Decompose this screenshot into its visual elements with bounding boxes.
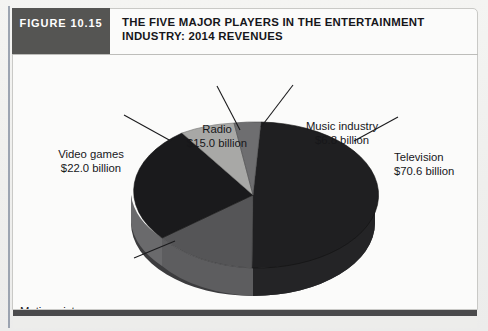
figure-bottom-bar (13, 310, 477, 316)
label-music-industry-name: Music industry (306, 120, 378, 132)
page-left-rule (8, 6, 10, 328)
figure-bottom-strip (13, 318, 477, 328)
figure-number-label: FIGURE 10.15 (20, 17, 103, 29)
label-video-games-name: Video games (58, 148, 124, 160)
pie-chart-svg (12, 55, 478, 309)
figure-header: FIGURE 10.15 THE FIVE MAJOR PLAYERS IN T… (12, 8, 478, 54)
label-music-industry-value: $6.8 billion (289, 134, 395, 148)
label-radio-name: Radio (202, 123, 232, 135)
label-motion-pictures-name: Motion pictures (20, 305, 97, 309)
label-television-value: $70.6 billion (394, 165, 478, 179)
figure-title-line-1: THE FIVE MAJOR PLAYERS IN THE ENTERTAINM… (122, 16, 425, 28)
label-video-games-value: $22.0 billion (31, 162, 151, 176)
pie-chart: Radio $15.0 billion Music industry $6.8 … (12, 55, 478, 309)
label-music-industry: Music industry $6.8 billion (289, 120, 395, 147)
figure-title: THE FIVE MAJOR PLAYERS IN THE ENTERTAINM… (122, 15, 472, 44)
label-radio: Radio $15.0 billion (162, 123, 272, 150)
figure-title-line-2: INDUSTRY: 2014 REVENUES (122, 29, 472, 43)
label-video-games: Video games $22.0 billion (31, 148, 151, 175)
label-television-name: Television (394, 151, 444, 163)
label-radio-value: $15.0 billion (162, 137, 272, 151)
figure-number-tab: FIGURE 10.15 (12, 8, 110, 54)
label-television: Television $70.6 billion (394, 151, 478, 178)
label-motion-pictures: Motion pictures $28.8 billion (20, 305, 156, 309)
